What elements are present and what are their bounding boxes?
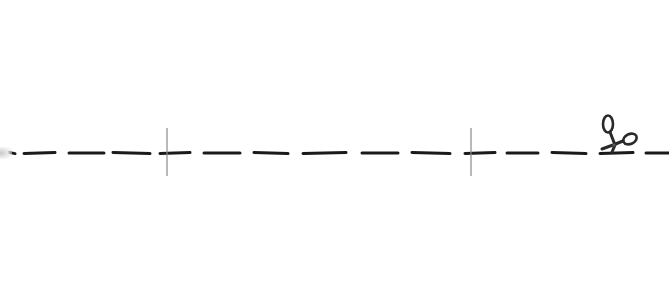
- dash-segment: [113, 152, 150, 153]
- dash-segment: [600, 153, 633, 154]
- dash-segment: [552, 152, 586, 153]
- dash-segment: [465, 153, 495, 154]
- dash-segment: [303, 153, 346, 154]
- scissors-pivot: [612, 143, 615, 146]
- dash-segment: [24, 153, 55, 154]
- dash-segment: [160, 153, 190, 154]
- scissors-upper-loop: [603, 116, 613, 133]
- line-start-fade: [0, 147, 12, 159]
- dash-segment: [254, 152, 288, 153]
- cut-line-svg: [0, 0, 669, 285]
- scissors-lower-loop: [622, 132, 639, 147]
- dashed-line: [9, 152, 669, 153]
- scissors-icon[interactable]: [602, 116, 638, 153]
- cut-line-canvas: [0, 0, 669, 285]
- dash-segment: [412, 152, 450, 153]
- scissors-blade-a: [610, 132, 615, 152]
